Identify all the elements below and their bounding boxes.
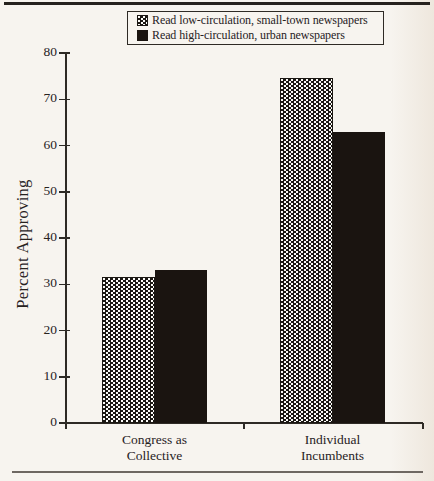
y-tick-label-20: 20 <box>19 322 57 338</box>
category-label-line: Individual <box>263 432 403 448</box>
category-label-0: Congress asCollective <box>85 432 225 463</box>
bar-solid-0 <box>155 270 208 423</box>
category-label-line: Congress as <box>85 432 225 448</box>
legend-item-low-circulation: Read low-circulation, small-town newspap… <box>137 14 383 28</box>
legend-item-high-circulation: Read high-circulation, urban newspapers <box>137 29 383 43</box>
y-tick-70 <box>59 99 70 101</box>
legend-box: Read low-circulation, small-town newspap… <box>127 11 384 45</box>
y-tick-label-40: 40 <box>19 229 57 245</box>
y-axis-line <box>65 53 67 429</box>
y-tick-80 <box>59 52 70 54</box>
y-tick-40 <box>59 237 70 239</box>
x-axis-end-tick <box>422 423 424 429</box>
bar-hatched-1 <box>280 78 333 423</box>
y-tick-label-0: 0 <box>19 414 57 430</box>
legend-label: Read low-circulation, small-town newspap… <box>152 13 368 28</box>
legend-label: Read high-circulation, urban newspapers <box>152 28 345 43</box>
solid-swatch-icon <box>137 30 148 41</box>
y-tick-20 <box>59 330 70 332</box>
y-tick-label-80: 80 <box>19 44 57 60</box>
y-tick-label-10: 10 <box>19 368 57 384</box>
y-tick-label-50: 50 <box>19 183 57 199</box>
y-tick-30 <box>59 284 70 286</box>
hatched-swatch-icon <box>137 15 148 26</box>
figure: Read low-circulation, small-town newspap… <box>0 0 434 481</box>
bar-solid-1 <box>333 132 386 423</box>
y-tick-10 <box>59 376 70 378</box>
category-label-1: IndividualIncumbents <box>263 432 403 463</box>
y-tick-label-70: 70 <box>19 90 57 106</box>
y-tick-label-60: 60 <box>19 137 57 153</box>
bar-hatched-0 <box>102 277 155 423</box>
y-tick-label-30: 30 <box>19 275 57 291</box>
bottom-rule-divider <box>12 471 423 473</box>
top-rule-divider <box>4 2 430 5</box>
y-tick-50 <box>59 191 70 193</box>
x-axis-mid-tick <box>243 423 245 429</box>
y-tick-60 <box>59 145 70 147</box>
y-tick-0 <box>59 422 70 424</box>
category-label-line: Collective <box>85 448 225 464</box>
category-label-line: Incumbents <box>263 448 403 464</box>
